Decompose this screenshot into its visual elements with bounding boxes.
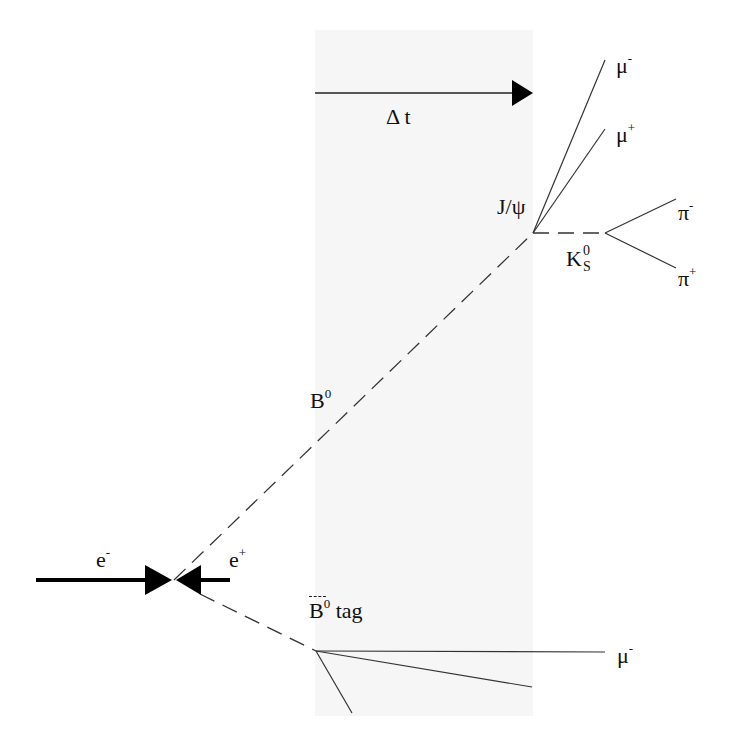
pi-plus-charge: + xyxy=(689,264,696,279)
tag-text: tag xyxy=(330,598,362,623)
b0bar-superscript: 0 xyxy=(324,596,331,611)
ks0-scripts: 0S xyxy=(582,256,594,266)
jpsi-symbol: J/ψ xyxy=(497,194,525,219)
decay-diagram: Δ t e- e+ B0 B0 tag J/ψ K0S μ- μ+ π- π+ … xyxy=(0,0,736,747)
mu-minus-track xyxy=(533,60,605,233)
electron-charge: - xyxy=(106,545,110,560)
b0-symbol: B xyxy=(310,388,325,413)
positron-label: e+ xyxy=(229,549,246,571)
delta-t-arrow xyxy=(315,80,533,106)
pi-plus-track xyxy=(605,233,676,268)
pi-minus-label: π- xyxy=(678,202,693,224)
mu-minus-symbol: μ xyxy=(616,53,628,78)
tag-mu-minus-track xyxy=(316,651,605,652)
b0-label: B0 xyxy=(310,390,331,412)
positron-symbol: e xyxy=(229,547,239,572)
pi-minus-symbol: π xyxy=(678,200,689,225)
tag-track-2 xyxy=(316,651,532,687)
tag-mu-minus-charge: - xyxy=(629,641,633,656)
positron-charge: + xyxy=(239,545,246,560)
pi-minus-charge: - xyxy=(689,198,693,213)
delta-t-text: Δ t xyxy=(386,104,411,129)
ks0-superscript: 0 xyxy=(583,244,590,258)
pi-minus-track xyxy=(605,199,676,233)
electron-symbol: e xyxy=(96,547,106,572)
mu-plus-label: μ+ xyxy=(616,124,635,146)
b0-superscript: 0 xyxy=(325,386,332,401)
mu-plus-symbol: μ xyxy=(616,122,628,147)
tag-track-3 xyxy=(316,651,352,713)
mu-plus-charge: + xyxy=(628,120,635,135)
electron-label: e- xyxy=(96,549,110,571)
jpsi-label: J/ψ xyxy=(497,196,525,218)
b0bar-tag-track xyxy=(200,594,316,651)
tag-mu-minus-symbol: μ xyxy=(617,643,629,668)
mu-plus-track xyxy=(533,129,605,233)
b0bar-tag-label: B0 tag xyxy=(309,600,363,622)
ks0-symbol: K xyxy=(566,246,582,271)
delta-t-label: Δ t xyxy=(386,106,411,128)
mu-minus-bottom-label: μ- xyxy=(617,645,633,667)
b0bar-symbol: B xyxy=(309,600,324,622)
mu-minus-top-label: μ- xyxy=(616,55,632,77)
mu-minus-charge: - xyxy=(628,51,632,66)
ks0-label: K0S xyxy=(566,248,594,270)
pi-plus-label: π+ xyxy=(678,268,696,290)
pi-plus-symbol: π xyxy=(678,266,689,291)
b0-track xyxy=(174,233,533,580)
diagram-lines xyxy=(0,0,736,747)
ks0-subscript: S xyxy=(583,260,591,274)
